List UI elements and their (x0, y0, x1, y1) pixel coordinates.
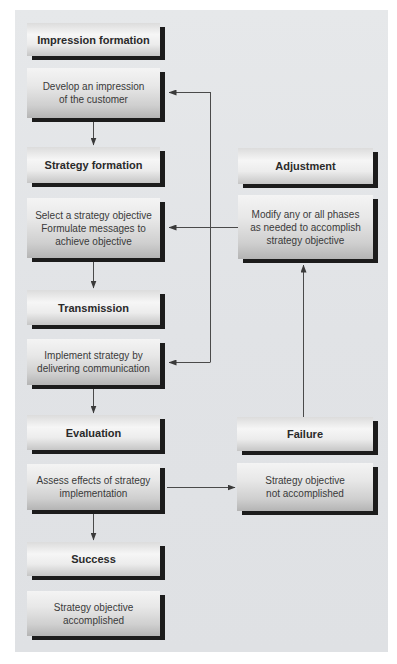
connector-layer (0, 0, 397, 664)
